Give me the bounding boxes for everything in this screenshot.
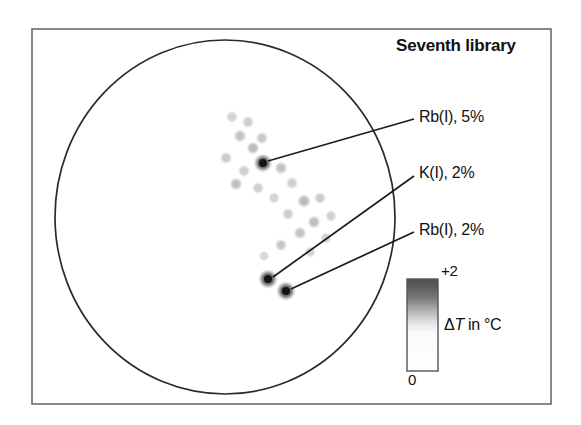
catalyst-spot-labeled [276,281,296,301]
catalyst-spot-labeled [254,154,273,173]
catalyst-spot [238,165,251,178]
catalyst-spot [252,182,265,195]
catalyst-spot [258,250,269,261]
catalyst-spot [229,177,243,191]
annotation-label-rb-5: Rb(I), 5% [419,108,484,126]
colorbar-min-tick-label: 0 [408,371,416,388]
colorbar-unit-label: ΔT in °C [444,316,501,334]
catalyst-spot [275,239,288,252]
catalyst-spot [220,152,233,165]
thermography-figure: Seventh library Rb(I), 5% K(I), 2% Rb(I)… [0,0,581,425]
catalyst-spot [242,116,255,129]
catalyst-spot [274,161,288,175]
catalyst-spot [325,210,337,222]
catalyst-spot [233,129,247,143]
colorbar-max-tick-label: +2 [441,262,458,279]
catalyst-spot-labeled [258,269,278,289]
catalyst-spot [297,194,311,208]
catalyst-spot [293,226,307,240]
figure-title: Seventh library [396,36,516,56]
catalyst-spot [268,192,280,204]
colorbar-unit-delta: Δ [444,316,454,333]
colorbar-unit-symbol: T [454,316,463,333]
catalyst-spot [246,141,260,155]
catalyst-spot [307,215,321,229]
annotation-label-k-2: K(I), 2% [419,164,474,182]
circular-library-wafer [55,40,395,394]
catalyst-spot [226,111,239,124]
catalyst-spot [256,132,269,145]
annotation-label-rb-2: Rb(I), 2% [419,221,484,239]
figure-canvas [0,0,581,425]
colorbar-unit-suffix: in °C [464,316,502,333]
catalyst-spot [314,192,327,205]
catalyst-spot [286,177,299,190]
colorbar-gradient [407,279,438,371]
catalyst-spot [282,208,295,221]
